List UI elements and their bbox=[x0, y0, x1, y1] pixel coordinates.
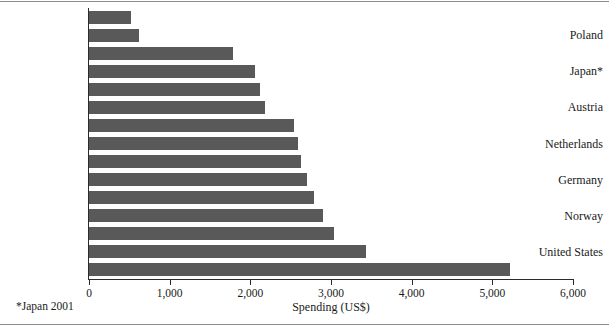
top-divider-rule bbox=[0, 1, 609, 2]
bar-row bbox=[89, 101, 265, 114]
x-tick-label: 3,000 bbox=[318, 287, 344, 299]
bar-row bbox=[89, 65, 255, 78]
y-axis-category-label: Austria bbox=[568, 100, 603, 115]
bar-row bbox=[89, 137, 298, 150]
y-axis-category-label: Germany bbox=[558, 172, 603, 187]
bar bbox=[89, 83, 260, 96]
bar-row bbox=[89, 263, 510, 276]
x-tick-label: 2,000 bbox=[237, 287, 263, 299]
bar bbox=[89, 119, 294, 132]
bar-row bbox=[89, 83, 260, 96]
chart-footnote: *Japan 2001 bbox=[16, 300, 74, 312]
bar-row bbox=[89, 119, 294, 132]
x-tick-mark bbox=[250, 279, 251, 285]
x-tick-label: 1,000 bbox=[157, 287, 183, 299]
x-tick-mark bbox=[170, 279, 171, 285]
y-axis-category-label: Poland bbox=[570, 28, 603, 43]
bar-series bbox=[89, 8, 573, 279]
bar-row bbox=[89, 47, 233, 60]
bar bbox=[89, 47, 233, 60]
x-tick-mark bbox=[89, 279, 90, 285]
bar-row bbox=[89, 155, 301, 168]
bar-row bbox=[89, 11, 131, 24]
y-axis-category-label: United States bbox=[539, 244, 603, 259]
x-tick-mark bbox=[412, 279, 413, 285]
bar bbox=[89, 209, 323, 222]
bar bbox=[89, 227, 334, 240]
bottom-divider-rule bbox=[0, 324, 609, 325]
x-tick-label: 0 bbox=[86, 287, 92, 299]
plot-area: 01,0002,0003,0004,0005,0006,000 bbox=[89, 8, 573, 279]
x-tick-label: 6,000 bbox=[560, 287, 586, 299]
bar-row bbox=[89, 209, 323, 222]
bar bbox=[89, 137, 298, 150]
bar-row bbox=[89, 173, 307, 186]
bar bbox=[89, 65, 255, 78]
bar bbox=[89, 263, 510, 276]
bar bbox=[89, 11, 131, 24]
x-tick-mark bbox=[573, 279, 574, 285]
bar-row bbox=[89, 245, 366, 258]
x-tick-label: 4,000 bbox=[399, 287, 425, 299]
x-tick-mark bbox=[331, 279, 332, 285]
y-axis-category-label: Netherlands bbox=[545, 136, 603, 151]
chart-figure: 01,0002,0003,0004,0005,0006,000 PolandJa… bbox=[0, 0, 609, 336]
bar bbox=[89, 101, 265, 114]
bar-row bbox=[89, 227, 334, 240]
bar bbox=[89, 29, 139, 42]
bar bbox=[89, 245, 366, 258]
x-axis-title: Spending (US$) bbox=[89, 300, 573, 315]
y-axis-category-label: Japan* bbox=[570, 64, 603, 79]
bar bbox=[89, 191, 314, 204]
y-axis-category-label: Norway bbox=[564, 208, 603, 223]
bar-row bbox=[89, 29, 139, 42]
bar bbox=[89, 155, 301, 168]
x-tick-mark bbox=[492, 279, 493, 285]
bar-row bbox=[89, 191, 314, 204]
bar bbox=[89, 173, 307, 186]
x-tick-label: 5,000 bbox=[479, 287, 505, 299]
